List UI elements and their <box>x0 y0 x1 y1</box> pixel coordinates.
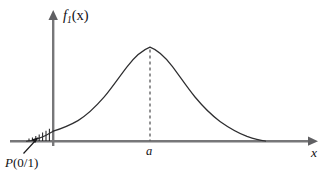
peak-position-label: a <box>146 145 152 158</box>
density-curve <box>53 47 265 141</box>
probability-wedge-hatching <box>27 129 54 141</box>
x-axis <box>10 137 318 146</box>
probability-label-argument: (0/1) <box>13 155 38 170</box>
y-axis-label: f1(x) <box>63 8 89 25</box>
pointer-shaft <box>24 141 36 154</box>
y-axis-arrowhead <box>49 10 58 20</box>
y-axis-label-argument: (x) <box>72 7 89 23</box>
probability-label-symbol: P <box>5 155 13 170</box>
figure-canvas <box>0 0 333 182</box>
probability-label: P(0/1) <box>5 156 38 169</box>
x-axis-label: x <box>311 146 317 160</box>
figure-container: f1(x) x a P(0/1) <box>0 0 333 182</box>
probability-pointer-arrow <box>24 137 39 153</box>
y-axis <box>49 10 58 146</box>
